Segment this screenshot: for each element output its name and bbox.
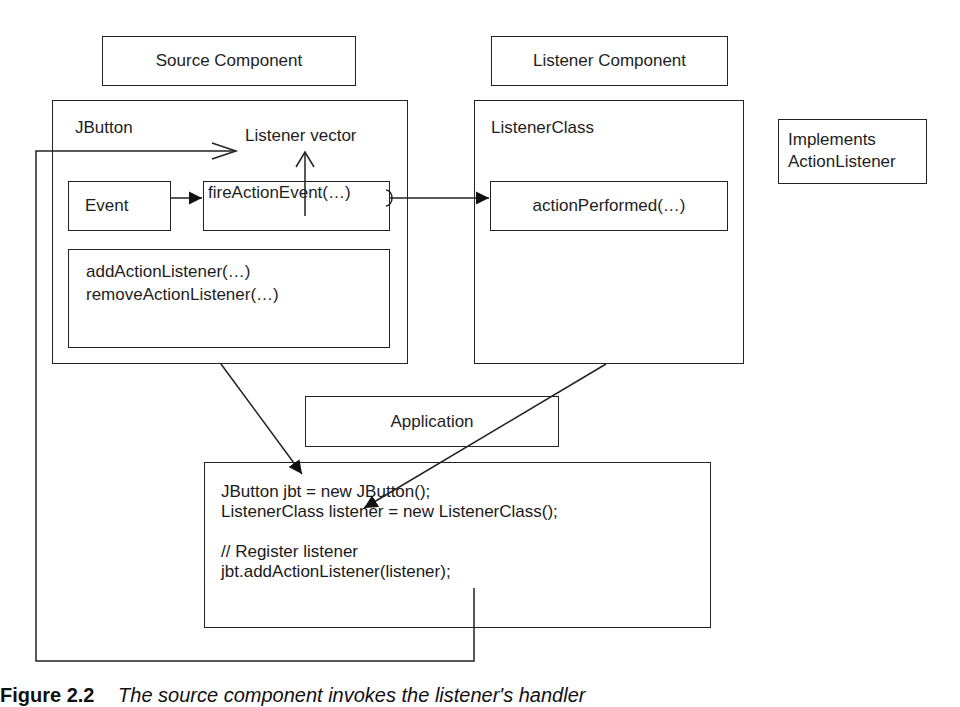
listener-component-header: Listener Component xyxy=(491,36,728,86)
figure-number: Figure 2.2 xyxy=(0,684,94,706)
listener-component-label: Listener Component xyxy=(533,51,686,71)
code-line xyxy=(221,522,558,542)
jbutton-title: JButton xyxy=(75,118,133,138)
listener-class-title: ListenerClass xyxy=(491,118,594,138)
code-line: jbt.addActionListener(listener); xyxy=(221,562,558,582)
listener-class-box xyxy=(474,100,744,364)
action-performed-box: actionPerformed(…) xyxy=(490,181,728,231)
implements-label: Implements xyxy=(788,130,876,150)
fire-action-event-label: fireActionEvent(…) xyxy=(208,183,351,203)
source-component-label: Source Component xyxy=(156,51,302,71)
action-listener-label: ActionListener xyxy=(788,152,896,172)
application-code: JButton jbt = new JButton(); ListenerCla… xyxy=(221,482,558,582)
figure-caption: Figure 2.2 The source component invokes … xyxy=(0,684,585,707)
remove-action-listener-label: removeActionListener(…) xyxy=(86,285,279,305)
action-performed-label: actionPerformed(…) xyxy=(532,196,685,216)
code-line: JButton jbt = new JButton(); xyxy=(221,482,558,502)
jbutton-to-code-arrow xyxy=(221,364,302,474)
listener-vector-label: Listener vector xyxy=(245,126,357,146)
application-label: Application xyxy=(390,412,473,432)
add-action-listener-label: addActionListener(…) xyxy=(86,262,250,282)
application-header: Application xyxy=(305,396,559,447)
code-line: ListenerClass listener = new ListenerCla… xyxy=(221,502,558,522)
source-component-header: Source Component xyxy=(102,36,356,86)
event-label: Event xyxy=(85,196,128,216)
code-line: // Register listener xyxy=(221,542,558,562)
figure-caption-text: The source component invokes the listene… xyxy=(118,684,585,706)
